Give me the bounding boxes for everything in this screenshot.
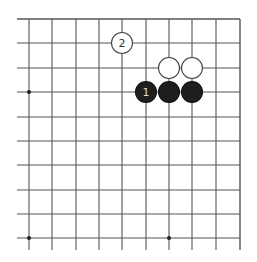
white-stone bbox=[182, 58, 203, 79]
move-number-label: 2 bbox=[119, 37, 126, 50]
star-point bbox=[167, 236, 171, 240]
grid-lines bbox=[17, 19, 240, 250]
black-stone bbox=[159, 82, 180, 103]
white-stone bbox=[159, 58, 180, 79]
black-stone bbox=[182, 82, 203, 103]
go-board: 21 bbox=[0, 0, 257, 262]
white-stone: 2 bbox=[112, 33, 133, 54]
star-point bbox=[27, 236, 31, 240]
star-point bbox=[27, 90, 31, 94]
move-number-label: 1 bbox=[143, 86, 150, 99]
black-stone: 1 bbox=[136, 82, 157, 103]
